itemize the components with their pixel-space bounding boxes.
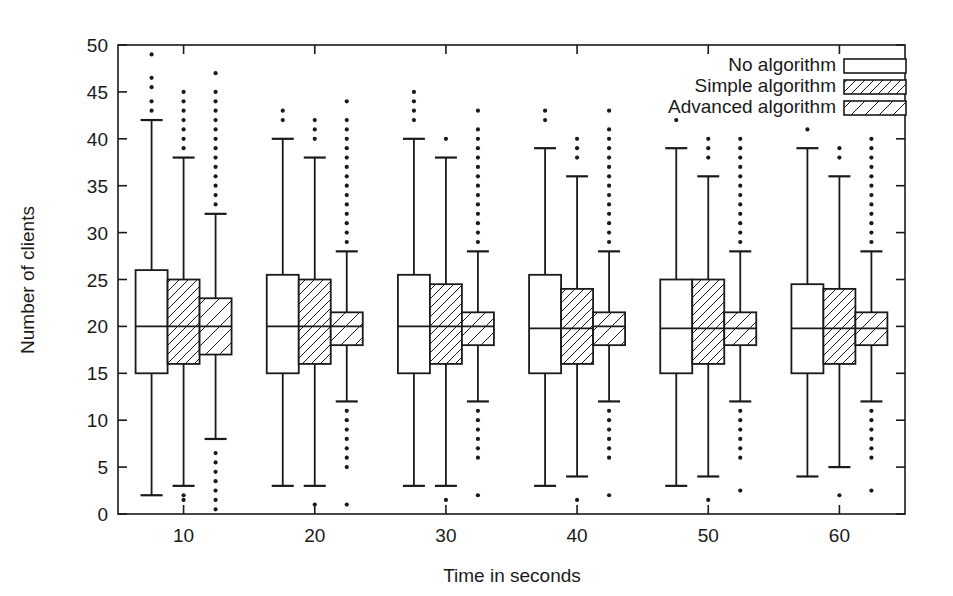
outlier-point [181, 127, 185, 131]
outlier-point [837, 493, 841, 497]
outlier-point [213, 488, 217, 492]
x-axis-title: Time in seconds [443, 565, 581, 586]
outlier-point [607, 155, 611, 159]
outlier-point [476, 155, 480, 159]
outlier-point [607, 446, 611, 450]
outlier-point [738, 240, 742, 244]
legend-swatch [844, 80, 906, 94]
outlier-point [213, 174, 217, 178]
outlier-point [444, 137, 448, 141]
outlier-point [674, 118, 678, 122]
outlier-point [345, 99, 349, 103]
outlier-point [476, 456, 480, 460]
y-tick-label: 0 [97, 504, 108, 525]
outlier-point [149, 52, 153, 56]
outlier-point [869, 221, 873, 225]
outlier-point [476, 146, 480, 150]
outlier-point [281, 118, 285, 122]
outlier-point [607, 456, 611, 460]
y-tick-label: 35 [87, 176, 108, 197]
outlier-point [607, 427, 611, 431]
y-tick-label: 10 [87, 410, 108, 431]
outlier-point [345, 503, 349, 507]
outlier-point [181, 137, 185, 141]
outlier-point [345, 409, 349, 413]
box-body [529, 275, 561, 373]
outlier-point [607, 437, 611, 441]
outlier-point [476, 427, 480, 431]
outlier-point [738, 146, 742, 150]
y-tick-label: 30 [87, 223, 108, 244]
outlier-point [869, 437, 873, 441]
outlier-point [345, 437, 349, 441]
outlier-point [213, 71, 217, 75]
outlier-point [607, 221, 611, 225]
outlier-point [313, 503, 317, 507]
y-tick-label: 40 [87, 129, 108, 150]
box-body [692, 280, 724, 364]
boxplot-svg: 05101520253035404550 102030405060 No alg… [0, 0, 953, 596]
outlier-point [476, 109, 480, 113]
outlier-point [213, 165, 217, 169]
x-tick-label: 40 [567, 525, 588, 546]
outlier-point [607, 109, 611, 113]
outlier-point [476, 137, 480, 141]
box-body [462, 312, 494, 345]
y-tick-label: 5 [97, 457, 108, 478]
y-tick-label: 20 [87, 316, 108, 337]
outlier-point [738, 212, 742, 216]
outlier-point [607, 165, 611, 169]
box-body [660, 280, 692, 374]
outlier-point [575, 498, 579, 502]
outlier-point [345, 127, 349, 131]
box-body [136, 270, 168, 373]
outlier-point [213, 155, 217, 159]
outlier-point [476, 437, 480, 441]
outlier-point [345, 155, 349, 159]
boxplot-figure: 05101520253035404550 102030405060 No alg… [0, 0, 953, 596]
outlier-point [345, 465, 349, 469]
outlier-point [213, 460, 217, 464]
outlier-point [706, 155, 710, 159]
outlier-point [444, 498, 448, 502]
box-body [331, 312, 363, 345]
outlier-point [869, 137, 873, 141]
outlier-point [607, 240, 611, 244]
outlier-point [607, 174, 611, 178]
box-body [267, 275, 299, 373]
outlier-point [869, 165, 873, 169]
outlier-point [149, 76, 153, 80]
outlier-point [837, 146, 841, 150]
outlier-point [869, 146, 873, 150]
y-axis-title: Number of clients [17, 206, 38, 354]
outlier-point [345, 184, 349, 188]
outlier-point [313, 127, 317, 131]
outlier-point [345, 146, 349, 150]
outlier-point [869, 409, 873, 413]
outlier-point [869, 155, 873, 159]
outlier-point [738, 456, 742, 460]
outlier-point [607, 193, 611, 197]
outlier-point [869, 456, 873, 460]
outlier-point [213, 470, 217, 474]
outlier-point [476, 418, 480, 422]
outlier-point [345, 221, 349, 225]
outlier-point [575, 146, 579, 150]
box-body [593, 312, 625, 345]
outlier-point [181, 99, 185, 103]
y-tick-label: 15 [87, 363, 108, 384]
outlier-point [476, 127, 480, 131]
outlier-point [869, 193, 873, 197]
outlier-point [706, 498, 710, 502]
outlier-point [149, 85, 153, 89]
outlier-point [738, 165, 742, 169]
outlier-point [476, 446, 480, 450]
outlier-point [313, 137, 317, 141]
outlier-point [213, 479, 217, 483]
outlier-point [706, 146, 710, 150]
outlier-point [869, 184, 873, 188]
outlier-point [476, 174, 480, 178]
outlier-point [869, 488, 873, 492]
outlier-point [575, 137, 579, 141]
x-tick-label: 30 [435, 525, 456, 546]
